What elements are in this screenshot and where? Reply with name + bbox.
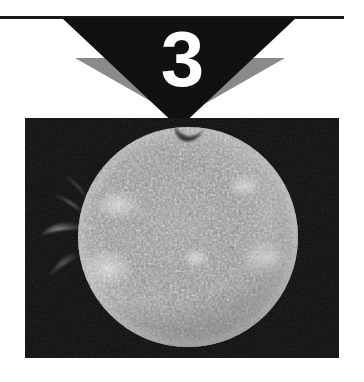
solar-photograph [25, 118, 339, 358]
sun-disk [25, 118, 339, 358]
issue-number: 3 [0, 20, 364, 98]
page-root: 3 [0, 0, 364, 382]
